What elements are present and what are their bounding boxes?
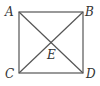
intersection-label-e: E: [46, 48, 56, 62]
square-diagram: A B C D E: [0, 0, 100, 86]
vertex-label-b: B: [84, 5, 94, 19]
vertex-label-a: A: [4, 5, 14, 19]
vertex-label-c: C: [5, 67, 14, 81]
vertex-label-d: D: [85, 67, 96, 81]
